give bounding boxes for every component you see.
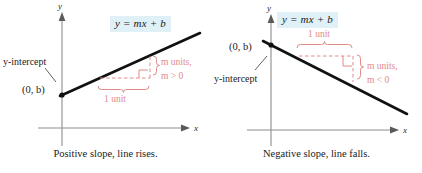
y-intercept-leader-line [45,68,56,82]
y-intercept-leader-line [255,56,267,70]
y-axis-positive [59,12,66,146]
intercept-point-label: (0, b) [229,42,252,53]
panel-positive-slope: y x y = mx + b y-intercept (0, b) m unit… [0,0,211,173]
y-axis-negative [268,14,275,146]
y-axis-label: y [267,4,271,13]
x-axis-negative [247,127,399,134]
panel-negative-slope: y x y = mx + b (0, b) y-intercept 1 unit… [211,0,422,173]
y-intercept-label: y-intercept [214,74,257,84]
y-intercept-dot [268,42,273,47]
equation-label: y = mx + b [110,16,171,32]
rise-label-line2: m > 0 [161,72,183,82]
panel-caption-positive: Positive slope, line rises. [0,148,211,159]
y-intercept-dot [59,92,64,97]
x-axis-positive [38,125,190,132]
rise-label-line2: m < 0 [367,76,389,86]
slope-intercept-figure: y x y = mx + b y-intercept (0, b) m unit… [0,0,422,173]
y-axis-label: y [58,2,62,11]
run-label: 1 unit [308,30,330,40]
equation-label: y = mx + b [277,12,338,28]
y-intercept-label: y-intercept [3,57,46,67]
rise-label-line1: m units, [367,62,398,72]
rise-label-line1: m units, [161,58,192,68]
panel-caption-negative: Negative slope, line falls. [211,148,422,159]
run-label: 1 unit [104,95,126,105]
x-axis-label: x [403,126,407,135]
x-axis-label: x [194,124,198,133]
intercept-point-label: (0, b) [22,85,45,96]
